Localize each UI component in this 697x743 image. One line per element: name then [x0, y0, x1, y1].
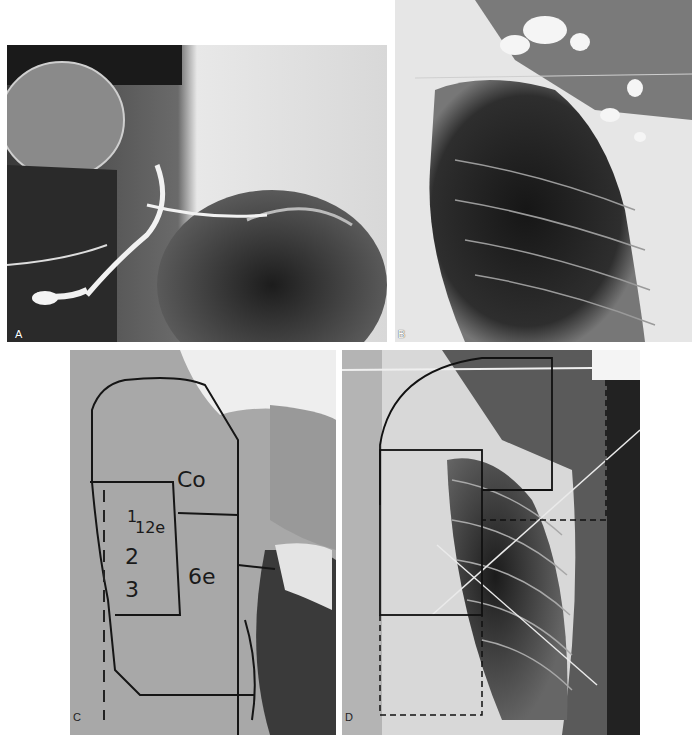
panel-b-radiograph: B [395, 0, 692, 342]
radiograph-d-image [342, 350, 640, 735]
field-mark-3: 3 [125, 577, 139, 602]
panel-d-radiograph: D [342, 350, 640, 735]
field-mark-6e: 6e [188, 564, 216, 589]
panel-c-photograph: Co 1 12e 2 3 6e C [70, 350, 336, 735]
panel-label-b: B [398, 328, 405, 340]
panel-label-d: D [345, 711, 353, 723]
field-mark-12e: 12e [135, 518, 165, 537]
radiograph-b-image [395, 0, 692, 342]
radiograph-a-image [7, 45, 387, 342]
field-mark-2: 2 [125, 544, 139, 569]
panel-label-a: A [15, 328, 22, 340]
field-mark-co: Co [177, 467, 206, 492]
panel-label-c: C [73, 711, 81, 723]
chest-photo-c-image: Co 1 12e 2 3 6e [70, 350, 336, 735]
panel-a-radiograph: A [7, 45, 387, 342]
